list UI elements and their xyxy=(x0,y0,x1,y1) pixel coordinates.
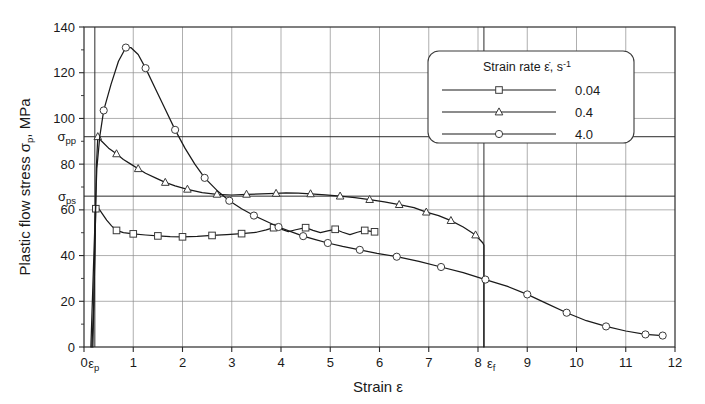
data-point-marker-circle xyxy=(172,126,179,133)
legend-title: Strain rate ε̇, s-1 xyxy=(483,59,571,74)
y-axis-tick-label: 120 xyxy=(53,65,75,80)
y-axis-tick-label: 40 xyxy=(61,248,75,263)
legend-value-4.0: 4.0 xyxy=(575,127,593,142)
series-line-0.4 xyxy=(93,137,484,347)
data-point-marker-circle xyxy=(495,130,502,137)
data-point-marker-circle xyxy=(100,107,107,114)
sigma-ps-label: σps xyxy=(58,189,76,206)
x-axis-tick-label: 6 xyxy=(376,355,383,370)
data-point-marker-circle xyxy=(250,212,257,219)
data-point-marker-triangle xyxy=(113,150,121,157)
x-axis-title: Strain ε xyxy=(353,378,403,395)
data-point-marker-triangle xyxy=(134,165,142,172)
data-point-marker-circle xyxy=(563,309,570,316)
x-axis-tick-label: 12 xyxy=(668,355,682,370)
x-axis-tick-label: 3 xyxy=(228,355,235,370)
x-axis-tick-label: 5 xyxy=(327,355,334,370)
y-axis-title: Plastic flow stress σp, MPa xyxy=(16,98,35,276)
y-axis-tick-label: 20 xyxy=(61,294,75,309)
x-axis-tick-label: 10 xyxy=(569,355,583,370)
data-point-marker-square xyxy=(238,230,245,237)
legend-value-0.4: 0.4 xyxy=(575,105,593,120)
data-point-marker-circle xyxy=(356,246,363,253)
data-point-marker-square xyxy=(361,227,368,234)
x-axis-tick-label: 4 xyxy=(277,355,284,370)
data-point-marker-circle xyxy=(393,253,400,260)
data-point-marker-circle xyxy=(642,331,649,338)
data-point-marker-square xyxy=(371,229,378,236)
data-point-marker-square xyxy=(302,224,309,231)
y-axis-tick-label: 0 xyxy=(68,340,75,355)
x-axis-tick-label: 8 xyxy=(474,355,481,370)
data-point-marker-circle xyxy=(275,223,282,230)
data-point-marker-square xyxy=(130,231,137,238)
y-axis-tick-label: 100 xyxy=(53,111,75,126)
x-axis-tick-label: 9 xyxy=(524,355,531,370)
x-axis-tick-label: 2 xyxy=(179,355,186,370)
data-point-marker-square xyxy=(209,232,216,239)
data-point-marker-circle xyxy=(437,263,444,270)
data-point-marker-circle xyxy=(122,44,129,51)
data-point-marker-square xyxy=(113,227,120,234)
x-axis-tick-label: 11 xyxy=(619,355,633,370)
data-point-marker-square xyxy=(496,87,503,94)
x-axis-tick-label: 0 xyxy=(80,355,87,370)
data-point-marker-circle xyxy=(226,197,233,204)
legend-value-0.04: 0.04 xyxy=(575,83,600,98)
data-point-marker-circle xyxy=(602,323,609,330)
data-point-marker-circle xyxy=(300,233,307,240)
data-point-marker-circle xyxy=(659,332,666,339)
data-point-marker-square xyxy=(155,233,162,240)
y-axis-tick-label: 80 xyxy=(61,157,75,172)
y-axis-tick-label: 140 xyxy=(53,20,75,35)
data-point-marker-circle xyxy=(324,239,331,246)
chart-svg: 0123456789101112020406080100120140εpεfσp… xyxy=(0,0,705,404)
epsilon-p-label: εp xyxy=(88,356,99,373)
plastic-flow-stress-chart: 0123456789101112020406080100120140εpεfσp… xyxy=(0,0,705,404)
x-axis-tick-label: 7 xyxy=(425,355,432,370)
data-point-marker-circle xyxy=(482,276,489,283)
data-point-marker-square xyxy=(179,234,186,241)
epsilon-f-label: εf xyxy=(487,356,496,373)
series-0.4 xyxy=(93,133,484,347)
x-axis-tick-label: 1 xyxy=(130,355,137,370)
data-point-marker-circle xyxy=(201,174,208,181)
data-point-marker-circle xyxy=(524,291,531,298)
sigma-pp-label: σpp xyxy=(57,129,76,146)
series-0.04 xyxy=(92,205,378,347)
data-point-marker-square xyxy=(332,226,339,233)
data-point-marker-circle xyxy=(142,65,149,72)
